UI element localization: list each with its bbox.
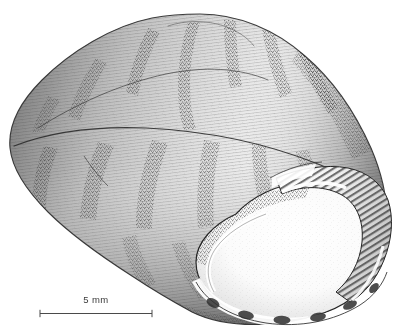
scale-bar-label: 5 mm bbox=[33, 294, 159, 305]
scale-bar-line bbox=[33, 309, 159, 318]
snail-shell-illustration bbox=[0, 0, 404, 335]
scale-bar: 5 mm bbox=[33, 294, 159, 320]
figure-root: 5 mm bbox=[0, 0, 404, 335]
